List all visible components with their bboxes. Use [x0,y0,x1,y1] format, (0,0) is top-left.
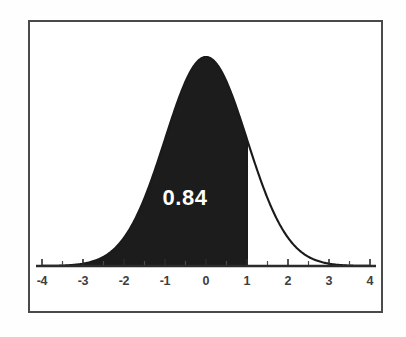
shaded-area-value-label: 0.84 [163,185,208,211]
x-tick-label: 2 [273,274,303,288]
x-tick-label: 4 [355,274,385,288]
x-tick-label: -3 [68,274,98,288]
plot-frame-border [28,20,383,313]
x-tick-label: -1 [150,274,180,288]
x-tick-label: 1 [232,274,262,288]
x-tick-label: 0 [191,274,221,288]
x-tick-label: -4 [27,274,57,288]
figure-root: -4-3-2-101234 0.84 [0,0,406,337]
x-tick-label: 3 [314,274,344,288]
x-tick-label: -2 [109,274,139,288]
